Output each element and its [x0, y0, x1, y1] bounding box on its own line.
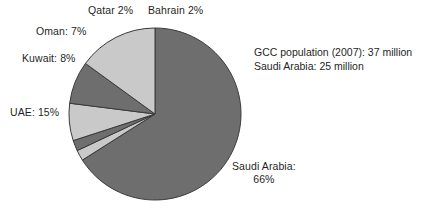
slice-label-qatar: Qatar 2% [88, 4, 133, 17]
slice-label-saudi-arabia-value: 66% [232, 173, 296, 186]
pie-chart-figure: Qatar 2% Bahrain 2% Oman: 7% Kuwait: 8% … [0, 0, 424, 212]
annotation-line-saudi-population: Saudi Arabia: 25 million [254, 59, 412, 73]
annotation-line-gcc-population: GCC population (2007): 37 million [254, 45, 412, 59]
slice-label-saudi-arabia: Saudi Arabia: 66% [232, 160, 296, 186]
slice-label-oman: Oman: 7% [36, 25, 86, 38]
pie-slice-group [69, 28, 241, 200]
slice-label-kuwait: Kuwait: 8% [22, 52, 76, 65]
slice-label-uae: UAE: 15% [10, 106, 59, 119]
slice-label-saudi-arabia-name: Saudi Arabia: [232, 160, 296, 173]
slice-label-bahrain: Bahrain 2% [148, 4, 203, 17]
annotation-block: GCC population (2007): 37 million Saudi … [254, 45, 412, 73]
